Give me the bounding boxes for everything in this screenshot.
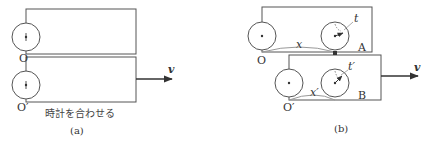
point-label-a: A xyxy=(357,41,367,54)
distance-label-x-prime: x′ xyxy=(310,86,319,99)
distance-label-x: x xyxy=(296,38,303,51)
caption-a: (a) xyxy=(70,125,84,136)
panel-b xyxy=(248,7,418,100)
event-marker xyxy=(333,51,337,55)
origin-label-bottom: O′ xyxy=(283,101,295,114)
origin-label-top: O xyxy=(257,54,266,67)
frame-bottom xyxy=(26,57,136,102)
velocity-label: v xyxy=(414,61,421,74)
point-label-b: B xyxy=(358,89,366,102)
panel-a xyxy=(12,9,172,102)
relativity-clock-diagram: O O′ v 時計を合わせる (a) O O′ A B xyxy=(0,0,433,142)
time-label-t-prime: t′ xyxy=(348,60,355,73)
caption-b: (b) xyxy=(334,123,348,134)
frame-top xyxy=(26,9,136,54)
time-label-t: t xyxy=(354,12,359,25)
origin-label-bottom: O′ xyxy=(17,101,29,114)
sync-note: 時計を合わせる xyxy=(45,107,115,119)
origin-label-top: O xyxy=(19,52,28,65)
velocity-label: v xyxy=(168,63,175,76)
